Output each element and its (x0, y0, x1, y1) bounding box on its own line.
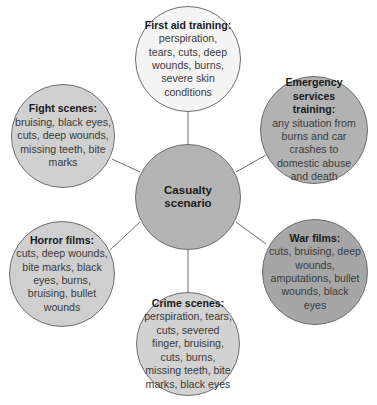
node-title: First aid training: (145, 19, 232, 32)
node-body: perspiration, tears, cuts, deep wounds, … (142, 32, 234, 99)
connector-war (236, 222, 266, 244)
node-fight-scenes: Fight scenes: bruising, black eyes, cuts… (11, 84, 115, 188)
node-title: Horror films: (30, 234, 94, 247)
connector-horror (110, 222, 140, 250)
node-title: Fight scenes: (29, 102, 97, 115)
connector-emergency (236, 155, 266, 172)
node-first-aid-training: First aid training: perspiration, tears,… (135, 6, 241, 112)
node-war-films: War films: cuts, bruising, deep wounds, … (262, 219, 368, 325)
connector-fight (112, 159, 140, 172)
node-body: cuts, deep wounds, bite marks, black eye… (13, 247, 111, 314)
node-horror-films: Horror films: cuts, deep wounds, bite ma… (9, 221, 115, 327)
node-title: War films: (290, 232, 341, 245)
node-body: perspiration, tears, cuts, severed finge… (140, 310, 236, 390)
node-body: bruising, black eyes, cuts, deep wounds,… (15, 116, 111, 170)
node-emergency-services-training: Emergency services training: any situati… (260, 76, 368, 184)
node-title: Crime scenes: (152, 297, 224, 310)
node-casualty-scenario: Casualty scenario (135, 144, 241, 250)
node-title: Emergency services training: (267, 76, 361, 116)
node-body: any situation from burns and car crashes… (267, 117, 361, 184)
node-crime-scenes: Crime scenes: perspiration, tears, cuts,… (136, 292, 240, 396)
node-body: cuts, bruising, deep wounds, amputations… (269, 245, 361, 312)
center-title: Casualty scenario (142, 184, 234, 211)
